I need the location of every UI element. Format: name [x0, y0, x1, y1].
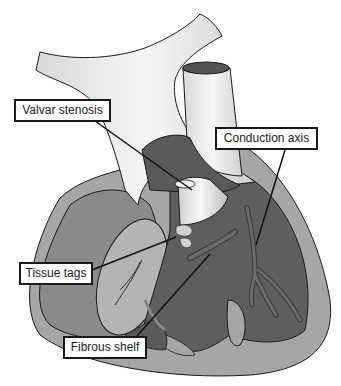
vessel-tube-opening: [183, 62, 229, 74]
heart-diagram: [0, 0, 341, 386]
label-valvar-stenosis: Valvar stenosis: [14, 99, 111, 122]
label-tissue-tags: Tissue tags: [19, 262, 93, 285]
tissue-tag-blob: [176, 225, 192, 236]
label-fibrous-shelf: Fibrous shelf: [63, 336, 147, 359]
label-conduction-axis: Conduction axis: [215, 127, 318, 150]
